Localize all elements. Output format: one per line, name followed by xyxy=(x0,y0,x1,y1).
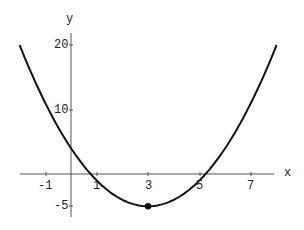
x-tick-label: 1 xyxy=(93,180,100,192)
y-tick-label: 20 xyxy=(54,39,68,51)
x-axis-label: x xyxy=(284,167,291,179)
y-tick-label: 10 xyxy=(54,104,68,116)
plot xyxy=(0,0,304,230)
x-tick-label: 5 xyxy=(196,180,203,192)
y-axis-label: y xyxy=(66,13,73,25)
x-tick-label: -1 xyxy=(38,180,52,192)
y-tick-label: -5 xyxy=(54,200,68,212)
x-tick-label: 3 xyxy=(145,180,152,192)
x-tick-label: 7 xyxy=(247,180,254,192)
vertex-point xyxy=(145,203,151,209)
